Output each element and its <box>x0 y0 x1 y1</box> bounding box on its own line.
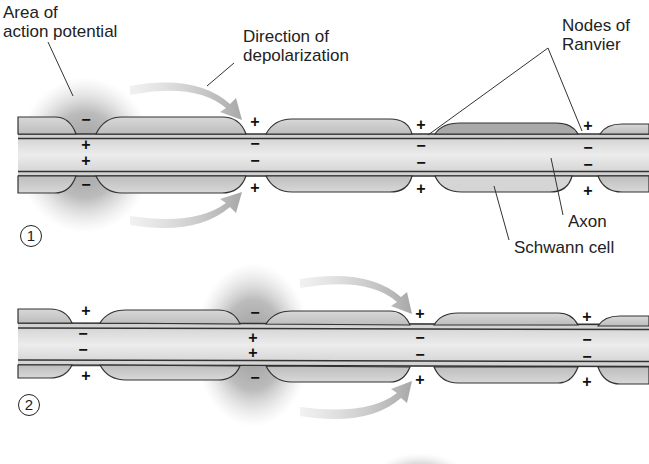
schwann-cell-1d-bottom <box>435 176 572 192</box>
charge-s1-n3-outer-top: + <box>414 117 428 133</box>
charge-s1-n1-outer-bottom: − <box>79 177 93 193</box>
label-schwann-cell: Schwann cell <box>514 238 614 257</box>
charge-s1-n4-inner-bottom: − <box>581 157 595 173</box>
step-number-2: 2 <box>18 394 40 416</box>
depolarization-arrow-1-bottom <box>130 192 242 228</box>
charge-s1-n2-outer-top: + <box>248 114 262 130</box>
charge-s1-n1-inner-top: + <box>79 137 93 153</box>
leader-nodes-of-ranvier <box>428 48 582 135</box>
label-direction-of-depolarization: Direction of depolarization <box>243 27 349 65</box>
schwann-cell-2d-bottom <box>434 367 578 383</box>
schwann-cell-1b-bottom <box>96 176 246 193</box>
schwann-cell-1d-top <box>435 123 578 134</box>
schwann-cell-2b-bottom <box>100 365 240 380</box>
charge-s1-n4-outer-top: + <box>581 118 595 134</box>
charge-s1-n3-inner-bottom: − <box>414 155 428 171</box>
label-area-of-action-potential: Area of action potential <box>3 3 117 41</box>
charge-s1-n1-inner-bottom: + <box>79 153 93 169</box>
charge-s2-n2-outer-top: − <box>248 305 262 321</box>
charge-s1-n4-outer-bottom: + <box>581 183 595 199</box>
schwann-cell-2e-bottom <box>598 367 649 384</box>
depolarization-arrow-1-top <box>130 83 242 120</box>
schwann-cell-2e-top <box>598 316 649 326</box>
schwann-cell-2a-bottom <box>18 365 72 378</box>
schwann-cell-1e-bottom <box>598 176 649 192</box>
step-number-1: 1 <box>20 225 42 247</box>
schwann-cell-1b-top <box>96 117 246 134</box>
charge-s1-n2-inner-top: − <box>248 136 262 152</box>
schwann-cell-1c-top <box>266 119 412 134</box>
axon-1 <box>18 134 649 176</box>
label-nodes-of-ranvier: Nodes of Ranvier <box>562 16 630 54</box>
charge-s2-n4-inner-top: − <box>580 332 594 348</box>
charge-s2-n2-outer-bottom: − <box>248 370 262 386</box>
charge-s2-n1-outer-bottom: + <box>79 368 93 384</box>
charge-s1-n2-outer-bottom: + <box>248 180 262 196</box>
action-potential-area-3-partial <box>375 453 465 464</box>
charge-s2-n4-outer-top: + <box>580 309 594 325</box>
depolarization-arrow-2-top <box>300 276 412 314</box>
step-2-diagram <box>18 263 649 464</box>
leader-direction-of-depolarization <box>207 63 234 86</box>
schwann-cell-1e-top <box>600 124 649 134</box>
charge-s1-n2-inner-bottom: − <box>248 153 262 169</box>
schwann-cell-1c-bottom <box>266 176 412 192</box>
schwann-cell-2b-top <box>100 310 240 324</box>
schwann-cell-2d-top <box>434 313 578 325</box>
charge-s2-n1-inner-top: − <box>76 326 90 342</box>
diagram-canvas <box>0 0 649 464</box>
charge-s1-n3-outer-bottom: + <box>414 181 428 197</box>
leader-schwann-cell <box>494 186 509 240</box>
schwann-cell-2a-top <box>18 309 72 323</box>
charge-s1-n3-inner-top: − <box>414 138 428 154</box>
schwann-cell-2c-bottom <box>266 366 410 382</box>
charge-s2-n1-outer-top: + <box>79 303 93 319</box>
charge-s2-n3-outer-top: + <box>413 306 427 322</box>
charge-s1-n1-outer-top: − <box>79 112 93 128</box>
label-axon: Axon <box>568 212 607 231</box>
charge-s2-n4-outer-bottom: + <box>580 374 594 390</box>
charge-s2-n2-inner-bottom: + <box>246 345 260 361</box>
charge-s2-n4-inner-bottom: − <box>580 349 594 365</box>
step-1-diagram <box>17 77 649 233</box>
charge-s2-n3-outer-bottom: + <box>413 372 427 388</box>
schwann-cell-2c-top <box>266 311 410 325</box>
charge-s2-n1-inner-bottom: − <box>76 342 90 358</box>
charge-s2-n3-inner-bottom: − <box>413 347 427 363</box>
charge-s1-n4-inner-top: − <box>581 140 595 156</box>
charge-s2-n3-inner-top: − <box>413 330 427 346</box>
depolarization-arrow-2-bottom <box>300 381 412 419</box>
